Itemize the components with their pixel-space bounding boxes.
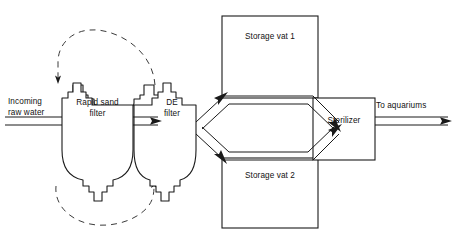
- sterilizer-label: Sterilizer: [313, 116, 375, 127]
- to-aquariums-label: To aquariums: [376, 101, 448, 112]
- storage-vat-2-box: [222, 158, 318, 228]
- storage-vat-2-label: Storage vat 2: [222, 171, 318, 182]
- dashed-backwash-arc-top: [58, 30, 155, 85]
- de-filter-label: DE filter: [148, 98, 196, 119]
- water-treatment-diagram: Incoming raw water Rapid sand filter DE …: [0, 0, 455, 239]
- rapid-sand-filter-label-line2: filter: [62, 109, 133, 120]
- de-filter-label-line1: DE: [148, 98, 196, 109]
- de-to-vat2-pipe: [196, 127, 229, 164]
- storage-vat-1-box: [222, 16, 318, 98]
- rapid-sand-filter-label: Rapid sand filter: [62, 98, 133, 119]
- to-aquariums-arrow: [375, 117, 452, 125]
- storage-vat-1-label: Storage vat 1: [222, 32, 318, 43]
- de-filter-label-line2: filter: [148, 109, 196, 120]
- rapid-sand-filter-label-line1: Rapid sand: [62, 98, 133, 109]
